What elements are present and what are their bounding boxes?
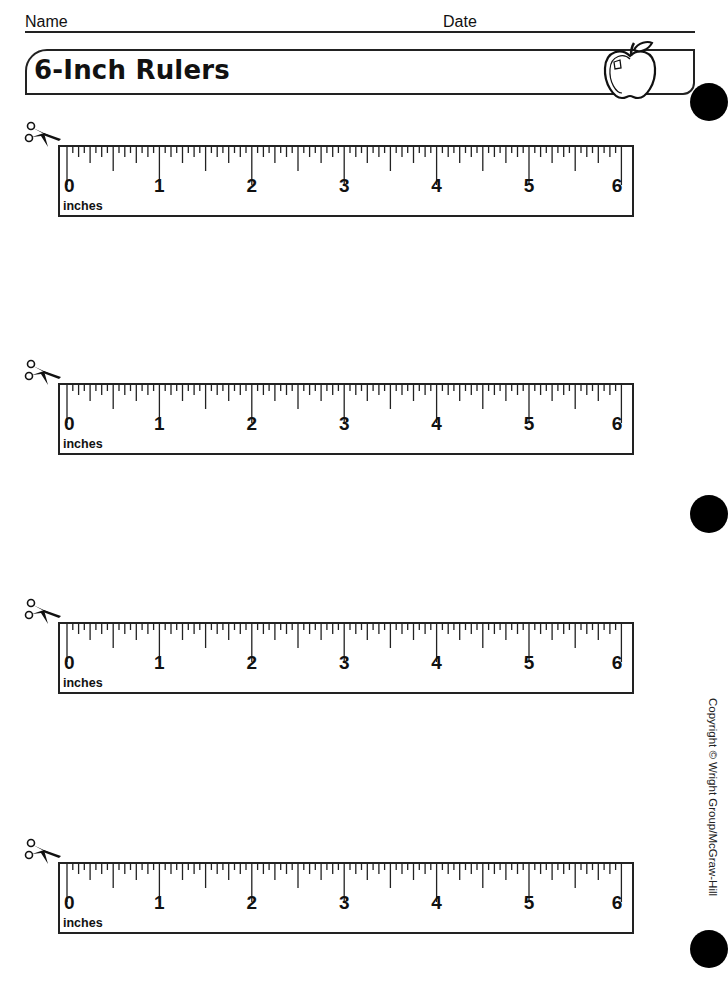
name-date-line[interactable] [25, 31, 695, 33]
ruler-inch-label: 3 [339, 413, 350, 435]
ruler-inch-label: 4 [431, 892, 442, 914]
binder-hole [690, 495, 728, 533]
ruler-unit-label: inches [63, 199, 103, 213]
ruler-inch-label: 0 [64, 413, 75, 435]
ruler-inch-label: 6 [612, 175, 623, 197]
ruler-inch-label: 2 [247, 175, 258, 197]
ruler-inch-label: 4 [431, 175, 442, 197]
ruler-inch-label: 1 [154, 413, 165, 435]
name-label: Name [25, 13, 68, 31]
ruler-inch-label: 0 [64, 175, 75, 197]
ruler-inch-label: 3 [339, 652, 350, 674]
apple-icon [600, 40, 660, 102]
ruler-inch-label: 6 [612, 892, 623, 914]
ruler-inch-label: 1 [154, 175, 165, 197]
ruler-inch-label: 6 [612, 413, 623, 435]
ruler-inch-label: 2 [247, 892, 258, 914]
ruler: 0123456inches [58, 622, 634, 694]
binder-hole [690, 930, 728, 968]
ruler-inch-label: 5 [524, 175, 535, 197]
ruler-inch-label: 1 [154, 652, 165, 674]
ruler-inch-label: 0 [64, 892, 75, 914]
ruler-inch-label: 5 [524, 413, 535, 435]
ruler-inch-label: 5 [524, 892, 535, 914]
ruler-inch-label: 1 [154, 892, 165, 914]
ruler-inch-label: 5 [524, 652, 535, 674]
ruler-unit-label: inches [63, 676, 103, 690]
ruler-unit-label: inches [63, 916, 103, 930]
ruler-inch-label: 6 [612, 652, 623, 674]
ruler-inch-label: 2 [247, 413, 258, 435]
page-title: 6-Inch Rulers [34, 55, 230, 85]
ruler-unit-label: inches [63, 437, 103, 451]
ruler-inch-label: 0 [64, 652, 75, 674]
ruler-inch-label: 4 [431, 652, 442, 674]
ruler: 0123456inches [58, 862, 634, 934]
ruler-inch-label: 2 [247, 652, 258, 674]
ruler: 0123456inches [58, 383, 634, 455]
ruler-inch-label: 3 [339, 175, 350, 197]
date-label: Date [443, 13, 477, 31]
ruler-inch-label: 3 [339, 892, 350, 914]
copyright-notice: Copyright © Wright Group/McGraw-Hill [707, 698, 719, 896]
binder-hole [690, 83, 728, 121]
ruler: 0123456inches [58, 145, 634, 217]
ruler-inch-label: 4 [431, 413, 442, 435]
